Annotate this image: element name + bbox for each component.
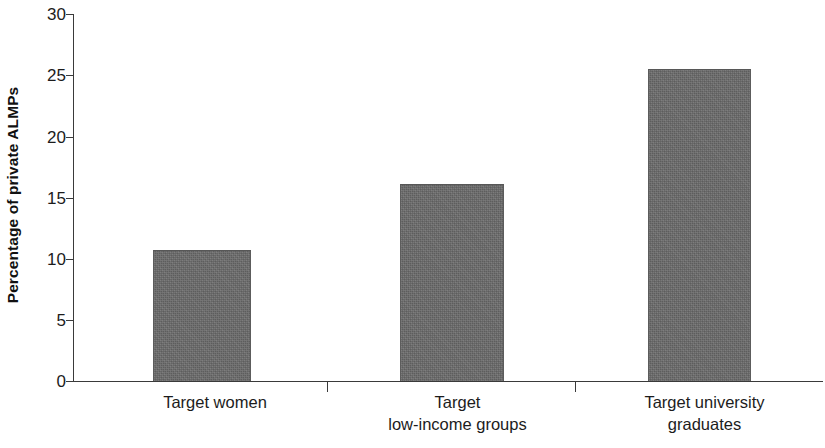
y-axis-line bbox=[73, 14, 74, 382]
y-tick-label-25: 25 bbox=[24, 67, 66, 84]
y-tick-mark-30 bbox=[66, 14, 73, 15]
y-tick-mark-25 bbox=[66, 75, 73, 76]
y-tick-label-10: 10 bbox=[24, 251, 66, 268]
x-category-label-line: graduates bbox=[592, 414, 817, 436]
bar-target-university-graduates bbox=[648, 69, 751, 381]
x-category-label-line: low-income groups bbox=[345, 414, 570, 436]
x-axis-separator-1 bbox=[327, 382, 328, 392]
y-axis-title: Percentage of private ALMPs bbox=[0, 0, 26, 390]
bar-chart-figure: Percentage of private ALMPs 30 25 20 15 … bbox=[0, 0, 825, 448]
bar-target-women bbox=[153, 250, 251, 381]
y-tick-mark-15 bbox=[66, 198, 73, 199]
bar-target-low-income-groups bbox=[400, 184, 504, 381]
y-tick-label-15: 15 bbox=[24, 190, 66, 207]
y-tick-mark-5 bbox=[66, 320, 73, 321]
y-tick-label-30: 30 bbox=[24, 6, 66, 23]
y-tick-label-20: 20 bbox=[24, 129, 66, 146]
y-tick-label-0: 0 bbox=[24, 373, 66, 390]
y-axis-title-text: Percentage of private ALMPs bbox=[4, 87, 22, 304]
y-tick-label-5: 5 bbox=[24, 312, 66, 329]
x-category-label-line: Target university bbox=[592, 392, 817, 414]
x-axis-line bbox=[73, 381, 823, 382]
y-tick-mark-0 bbox=[66, 381, 73, 382]
y-tick-mark-20 bbox=[66, 137, 73, 138]
x-category-label-target-women: Target women bbox=[110, 392, 320, 414]
x-category-label-line: Target women bbox=[110, 392, 320, 414]
x-category-label-target-university-graduates: Target university graduates bbox=[592, 392, 817, 436]
x-category-label-target-low-income-groups: Target low-income groups bbox=[345, 392, 570, 436]
x-axis-separator-2 bbox=[575, 382, 576, 392]
x-category-label-line: Target bbox=[345, 392, 570, 414]
y-tick-mark-10 bbox=[66, 259, 73, 260]
y-axis-tick-labels: 30 25 20 15 10 5 0 bbox=[26, 0, 66, 448]
